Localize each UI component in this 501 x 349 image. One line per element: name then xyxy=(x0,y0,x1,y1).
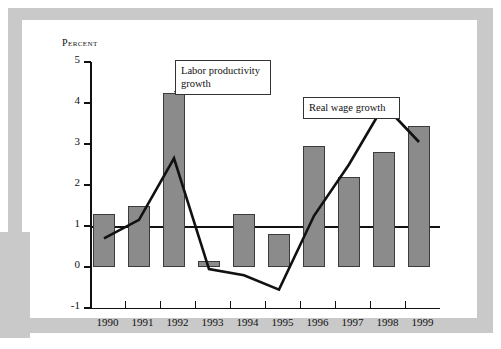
real-wage-growth-line xyxy=(104,105,419,290)
x-axis-tick-label: 1996 xyxy=(307,316,329,328)
x-axis-tick-label: 1993 xyxy=(202,316,224,328)
x-axis-tick-label: 1991 xyxy=(132,316,154,328)
x-axis-tick-label: 1999 xyxy=(412,316,434,328)
x-axis-tick-label: 1997 xyxy=(342,316,364,328)
chart-figure: Percent 543210-1 19901991199219931994199… xyxy=(22,20,477,310)
x-axis-tick-label: 1990 xyxy=(97,316,119,328)
annotation-labor-productivity-growth: Labor productivity growth xyxy=(175,60,271,95)
x-axis-tick-label: 1995 xyxy=(272,316,294,328)
x-axis-tick-label: 1994 xyxy=(237,316,259,328)
x-axis-tick-label: 1992 xyxy=(167,316,189,328)
x-axis-tick-label: 1998 xyxy=(377,316,399,328)
chart-page: Percent 543210-1 19901991199219931994199… xyxy=(0,0,501,349)
annotation-real-wage-growth: Real wage growth xyxy=(303,97,400,119)
